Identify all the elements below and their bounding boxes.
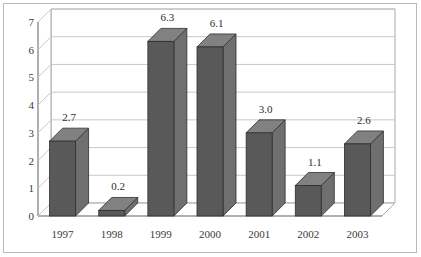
value-label-1999: 6.3 xyxy=(147,12,187,23)
y-tick-label-6: 6 xyxy=(12,45,34,56)
x-tick-label-2002: 2002 xyxy=(285,229,331,240)
y-tick-label-5: 5 xyxy=(12,72,34,83)
bar-2000 xyxy=(197,34,236,216)
x-tick-label-1997: 1997 xyxy=(40,229,86,240)
y-tick-label-3: 3 xyxy=(12,128,34,139)
bar-1997 xyxy=(50,128,89,216)
value-label-2002: 1.1 xyxy=(295,157,335,168)
y-tick-label-4: 4 xyxy=(12,100,34,111)
bar-2003 xyxy=(344,131,383,216)
value-label-2001: 3.0 xyxy=(246,104,286,115)
value-label-2000: 6.1 xyxy=(197,18,237,29)
value-label-2003: 2.6 xyxy=(344,115,384,126)
x-tick-label-2003: 2003 xyxy=(334,229,380,240)
bar-chart-figure: 01234567 1997199819992000200120022003 2.… xyxy=(0,0,421,257)
y-tick-label-2: 2 xyxy=(12,156,34,167)
x-tick-label-2000: 2000 xyxy=(187,229,233,240)
bar-1999 xyxy=(148,28,187,216)
bar-2001 xyxy=(246,120,285,216)
x-tick-label-1999: 1999 xyxy=(138,229,184,240)
y-axis-tick-labels: 01234567 xyxy=(8,0,34,257)
x-tick-label-2001: 2001 xyxy=(236,229,282,240)
x-tick-label-1998: 1998 xyxy=(89,229,135,240)
y-tick-label-1: 1 xyxy=(12,183,34,194)
chart-svg xyxy=(0,0,421,257)
y-tick-label-0: 0 xyxy=(12,211,34,222)
value-label-1997: 2.7 xyxy=(49,112,89,123)
plot-area xyxy=(0,0,421,257)
y-tick-label-7: 7 xyxy=(12,17,34,28)
value-label-1998: 0.2 xyxy=(98,181,138,192)
